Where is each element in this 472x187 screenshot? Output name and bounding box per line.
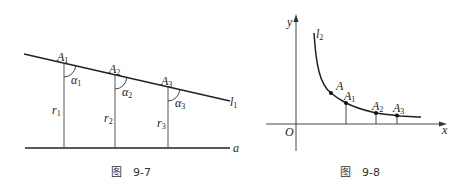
point-A [329, 91, 333, 95]
label-r1: r1 [52, 103, 61, 118]
caption-number: 9-8 [362, 166, 380, 179]
label-origin: O [285, 125, 294, 139]
label-alpha1: α1 [71, 73, 81, 88]
label-curve-A2: A2 [371, 99, 383, 114]
label-a: a [233, 141, 239, 155]
label-alpha3: α3 [175, 96, 185, 111]
label-r2: r2 [104, 111, 113, 126]
label-A: A [335, 79, 344, 93]
y-axis-arrow-icon [294, 14, 299, 22]
diagram-canvas: A1 A2 A3 α1 α2 α3 r1 r2 r3 l1 a 图 9-7 A … [0, 0, 472, 187]
figure-9-7: A1 A2 A3 α1 α2 α3 r1 r2 r3 l1 a 图 9-7 [24, 50, 239, 179]
label-l2: l2 [316, 27, 323, 42]
label-A3: A3 [160, 74, 172, 89]
label-y: y [286, 15, 293, 29]
label-r3: r3 [157, 116, 166, 131]
label-l1: l1 [230, 95, 237, 110]
figure-9-8: A A1 A2 A3 l2 y x O 图 9-8 [266, 14, 448, 179]
caption-char: 图 [111, 166, 122, 179]
caption-char: 图 [340, 166, 351, 179]
curve-l2 [314, 33, 421, 117]
label-A1: A1 [56, 50, 68, 65]
label-curve-A3: A3 [392, 101, 404, 116]
caption-number: 9-7 [133, 166, 151, 179]
label-A2: A2 [108, 62, 120, 77]
label-alpha2: α2 [122, 85, 132, 100]
label-curve-A1: A1 [343, 89, 355, 104]
label-x: x [441, 123, 448, 137]
